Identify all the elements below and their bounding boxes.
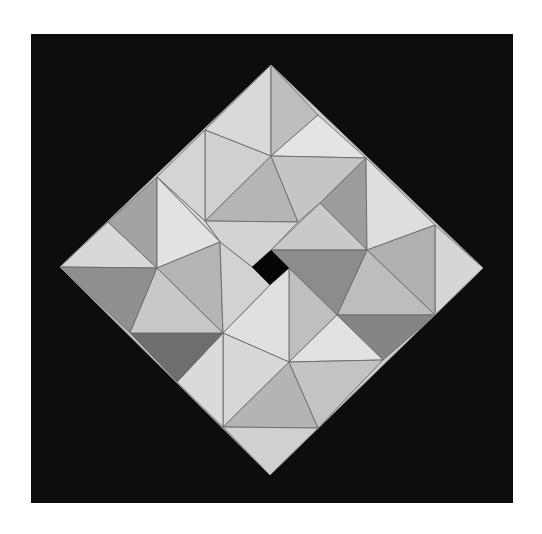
figure-canvas — [0, 0, 542, 534]
pinwheel-dissection-figure — [0, 0, 542, 534]
